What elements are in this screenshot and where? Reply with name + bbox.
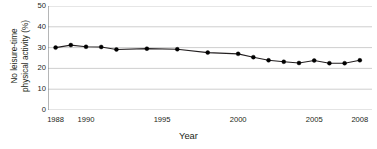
data-point: [358, 58, 362, 62]
y-axis-tick-label: 30: [30, 44, 46, 52]
x-axis-tick-label: 1988: [47, 116, 64, 124]
y-axis-tick-label: 50: [30, 2, 46, 10]
data-point: [312, 59, 316, 63]
data-point: [54, 46, 58, 50]
y-axis-tick-label: 40: [30, 23, 46, 31]
plot-area: [48, 6, 372, 110]
data-point: [327, 61, 331, 65]
data-markers: [54, 43, 362, 65]
data-point: [99, 45, 103, 49]
data-point: [236, 52, 240, 56]
x-axis-tick-label: 2000: [230, 116, 247, 124]
data-point: [282, 60, 286, 64]
data-point: [297, 61, 301, 65]
y-axis-title-line1: No leisure-time: [9, 20, 20, 92]
x-axis-tick-label: 2005: [306, 116, 323, 124]
data-point: [267, 58, 271, 62]
data-point: [145, 47, 149, 51]
y-axis-tick-label: 20: [30, 64, 46, 72]
data-point: [114, 47, 118, 51]
line-chart-svg: [48, 6, 372, 110]
data-point: [84, 45, 88, 49]
data-point: [69, 43, 73, 47]
y-axis-tick-label: 10: [30, 85, 46, 93]
gridlines: [48, 6, 372, 110]
chart-figure: No leisure-time physical activity (%) 01…: [0, 0, 377, 149]
x-axis-tick-label: 1990: [78, 116, 95, 124]
data-point: [175, 47, 179, 51]
x-axis-tick-label: 2008: [351, 116, 368, 124]
y-axis-tick-label: 0: [30, 106, 46, 114]
data-point: [251, 55, 255, 59]
x-axis-title: Year: [0, 130, 377, 141]
x-axis-tick-label: 1995: [154, 116, 171, 124]
data-point: [206, 51, 210, 55]
data-point: [343, 61, 347, 65]
y-axis-tick-labels: 01020304050: [24, 0, 46, 149]
